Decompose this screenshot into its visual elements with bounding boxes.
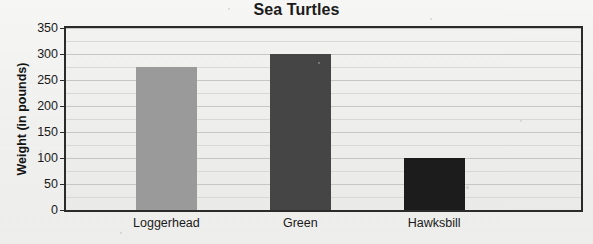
- y-tick-label: 300: [18, 47, 58, 61]
- paper-speck: [40, 150, 42, 152]
- y-tick-label: 250: [18, 73, 58, 87]
- y-tick-label: 150: [18, 125, 58, 139]
- paper-speck: [318, 62, 320, 64]
- x-label-loggerhead: Loggerhead: [133, 216, 200, 230]
- x-label-hawksbill: Hawksbill: [408, 216, 461, 230]
- bar-green: [270, 54, 331, 210]
- y-tick-label: 100: [18, 151, 58, 165]
- paper-speck: [520, 120, 522, 122]
- paper-speck: [430, 18, 432, 20]
- paper-speck: [120, 232, 122, 234]
- paper-speck: [228, 8, 230, 10]
- plot-area: [64, 26, 583, 212]
- chart-title: Sea Turtles: [0, 1, 593, 19]
- gridline-minor: [66, 41, 581, 42]
- y-tick-label: 50: [18, 177, 58, 191]
- chart-figure: Sea Turtles Weight (in pounds) 050100150…: [0, 0, 593, 244]
- gridline-major: [66, 28, 581, 29]
- bar-loggerhead: [136, 67, 197, 210]
- y-tick-label: 0: [18, 203, 58, 217]
- x-axis-category-labels: LoggerheadGreenHawksbill: [64, 216, 583, 238]
- y-tick-label: 200: [18, 99, 58, 113]
- x-label-green: Green: [283, 216, 318, 230]
- bar-hawksbill: [404, 158, 465, 210]
- y-tick-label: 350: [18, 21, 58, 35]
- paper-speck: [466, 186, 469, 189]
